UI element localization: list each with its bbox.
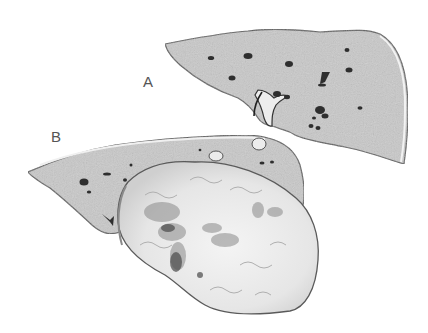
liver-illustration: A B xyxy=(0,0,428,333)
panel-label-a: A xyxy=(143,74,153,89)
liver-b xyxy=(28,135,318,314)
panel-label-b: B xyxy=(51,129,61,144)
liver-drawing xyxy=(0,0,428,333)
